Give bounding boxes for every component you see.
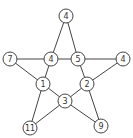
node-mid_l: 1 (36, 77, 50, 91)
node-right: 4 (116, 52, 130, 66)
node-label: 7 (7, 55, 12, 64)
node-label: 9 (98, 122, 103, 131)
nodes-group: 47454123119 (3, 9, 130, 135)
edges-group (10, 16, 123, 128)
node-bottom_r: 9 (94, 119, 108, 133)
node-label: 11 (25, 124, 35, 133)
node-label: 3 (62, 97, 67, 106)
node-left: 7 (3, 52, 17, 66)
node-mid_r: 2 (80, 77, 94, 91)
star-graph-diagram: 47454123119 (0, 0, 133, 138)
node-label: 4 (63, 12, 68, 21)
node-label: 1 (40, 80, 45, 89)
node-top: 4 (59, 9, 73, 23)
node-label: 2 (84, 80, 89, 89)
node-label: 4 (48, 55, 53, 64)
node-inner_l: 4 (44, 52, 58, 66)
node-inner_r: 5 (71, 52, 85, 66)
node-label: 5 (75, 55, 80, 64)
node-bottom_l: 11 (23, 121, 37, 135)
node-label: 4 (120, 55, 125, 64)
node-center: 3 (58, 94, 72, 108)
